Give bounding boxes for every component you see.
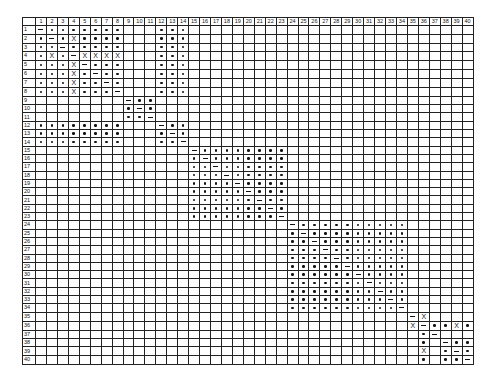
dot-cell <box>221 188 232 196</box>
empty-cell <box>364 312 375 321</box>
empty-cell <box>178 338 189 346</box>
empty-cell <box>79 221 90 229</box>
dash-icon <box>345 266 350 267</box>
empty-cell <box>178 171 189 179</box>
dot-cell <box>36 121 47 129</box>
empty-cell <box>167 221 178 229</box>
dash-icon <box>224 175 229 176</box>
empty-cell <box>123 262 134 270</box>
empty-cell <box>353 60 364 69</box>
empty-cell <box>112 213 123 221</box>
empty-cell <box>46 171 57 179</box>
column-header: 3 <box>57 18 68 26</box>
empty-cell <box>57 146 68 154</box>
empty-cell <box>90 262 101 270</box>
dot-cell <box>68 26 79 34</box>
empty-cell <box>123 221 134 229</box>
dot-cell <box>200 196 211 204</box>
empty-cell <box>90 330 101 338</box>
row-header: 13 <box>23 130 36 138</box>
empty-cell <box>265 312 276 321</box>
dot-cell <box>309 296 320 304</box>
empty-cell <box>79 246 90 254</box>
empty-cell <box>200 121 211 129</box>
empty-cell <box>320 96 331 104</box>
empty-cell <box>254 287 265 295</box>
empty-cell <box>440 221 451 229</box>
empty-cell <box>221 321 232 330</box>
empty-cell <box>145 154 156 162</box>
empty-cell <box>189 347 200 356</box>
dot-icon <box>258 174 261 177</box>
empty-cell <box>134 221 145 229</box>
dot-cell <box>123 105 134 113</box>
empty-cell <box>407 130 418 138</box>
dot-cell <box>167 60 178 69</box>
row-header: 14 <box>23 138 36 146</box>
dot-icon <box>127 116 130 119</box>
empty-cell <box>276 279 287 287</box>
dot-icon <box>171 29 174 32</box>
empty-cell <box>200 296 211 304</box>
empty-cell <box>57 254 68 262</box>
cross-icon: X <box>71 61 76 68</box>
dash-cell <box>342 262 353 270</box>
empty-cell <box>156 171 167 179</box>
empty-cell <box>265 296 276 304</box>
dot-icon <box>215 215 218 218</box>
dot-icon <box>291 290 294 293</box>
dash-cell <box>123 96 134 104</box>
empty-cell <box>254 296 265 304</box>
empty-cell <box>211 69 222 78</box>
empty-cell <box>134 146 145 154</box>
dot-icon <box>51 132 54 135</box>
dot-icon <box>149 107 152 110</box>
empty-cell <box>178 287 189 295</box>
dot-icon <box>269 182 272 185</box>
empty-cell <box>90 296 101 304</box>
empty-cell <box>353 338 364 346</box>
dot-cell <box>396 254 407 262</box>
dot-icon <box>291 249 294 252</box>
dot-icon <box>62 91 65 94</box>
dot-icon <box>335 273 338 276</box>
empty-cell <box>189 138 200 146</box>
dash-icon <box>432 334 437 335</box>
empty-cell <box>407 221 418 229</box>
empty-cell <box>462 146 473 154</box>
empty-cell <box>90 279 101 287</box>
dot-cell <box>46 130 57 138</box>
empty-cell <box>243 262 254 270</box>
dot-cell <box>320 262 331 270</box>
dot-icon <box>83 73 86 76</box>
empty-cell <box>320 188 331 196</box>
matrix-grid: 1234567891011121314151617181920212223242… <box>22 17 474 365</box>
cross-icon: X <box>421 347 426 354</box>
empty-cell <box>451 87 462 96</box>
dot-icon <box>455 341 458 344</box>
empty-cell <box>386 87 397 96</box>
dash-cell <box>276 213 287 221</box>
empty-cell <box>221 87 232 96</box>
dot-cell <box>298 279 309 287</box>
empty-cell <box>342 312 353 321</box>
dash-icon <box>323 249 328 250</box>
dot-cell <box>396 279 407 287</box>
empty-cell <box>342 171 353 179</box>
dot-icon <box>335 232 338 235</box>
empty-cell <box>429 271 440 279</box>
dot-icon <box>258 190 261 193</box>
empty-cell <box>79 338 90 346</box>
empty-cell <box>462 87 473 96</box>
empty-cell <box>418 26 429 34</box>
empty-cell <box>418 304 429 312</box>
empty-cell <box>462 271 473 279</box>
empty-cell <box>211 51 222 60</box>
empty-cell <box>145 287 156 295</box>
dot-cell <box>232 171 243 179</box>
empty-cell <box>429 237 440 245</box>
empty-cell <box>407 271 418 279</box>
empty-cell <box>189 237 200 245</box>
empty-cell <box>243 279 254 287</box>
empty-cell <box>309 87 320 96</box>
